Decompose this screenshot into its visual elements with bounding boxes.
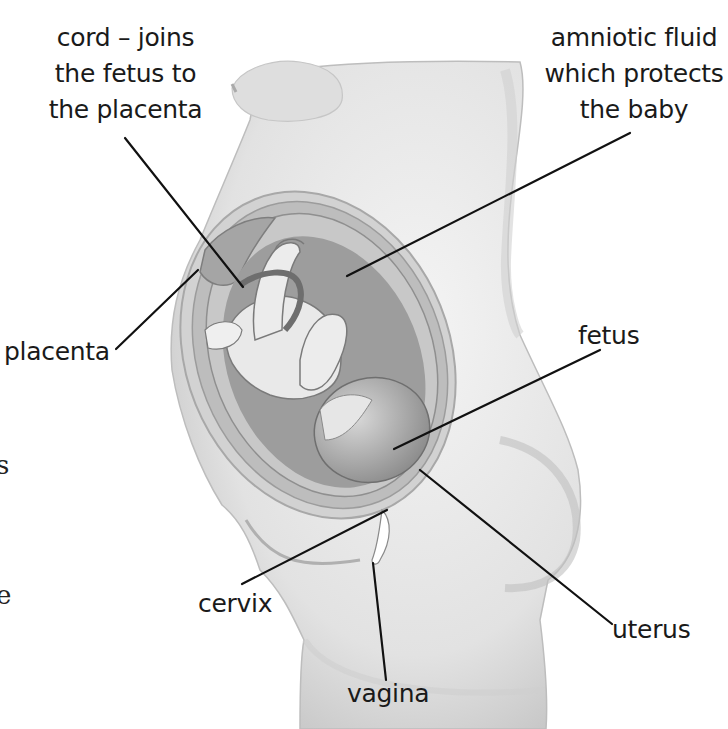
label-amniotic-line-2: which protects <box>540 56 728 92</box>
label-amniotic-fluid: amniotic fluid which protects the baby <box>540 20 728 128</box>
label-cervix: cervix <box>198 586 272 622</box>
label-amniotic-line-3: the baby <box>540 92 728 128</box>
label-fetus: fetus <box>578 318 639 354</box>
label-cord-line-1: cord – joins <box>38 20 213 56</box>
label-cord: cord – joins the fetus to the placenta <box>38 20 213 128</box>
label-amniotic-line-1: amniotic fluid <box>540 20 728 56</box>
label-cord-line-2: the fetus to <box>38 56 213 92</box>
label-uterus: uterus <box>612 612 690 648</box>
clipped-text-fragment: e <box>0 580 11 610</box>
label-placenta: placenta <box>4 334 110 370</box>
breast <box>232 61 342 121</box>
label-cord-line-3: the placenta <box>38 92 213 128</box>
label-vagina: vagina <box>347 676 429 712</box>
diagram-stage: cord – joins the fetus to the placenta a… <box>0 0 728 729</box>
clipped-text-fragment: s <box>0 450 9 480</box>
